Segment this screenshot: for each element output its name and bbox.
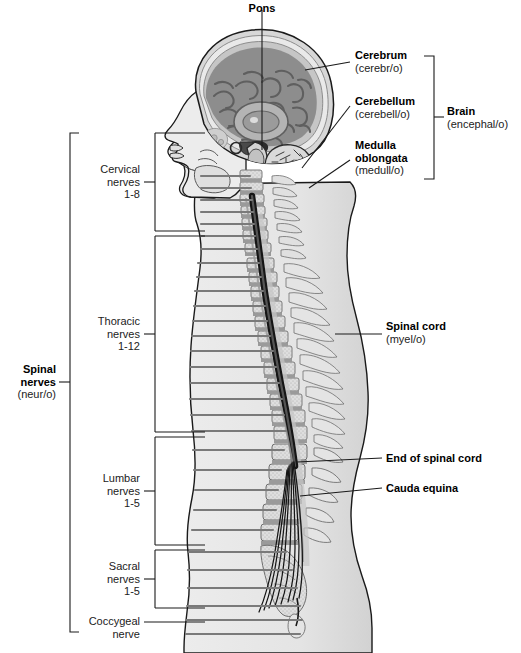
bracket-spinal-nerves — [70, 133, 79, 632]
label-brain-group: Brain (encephal/o) — [447, 105, 508, 130]
label-cervical-nerves: Cervical nerves 1-8 — [46, 163, 140, 201]
label-end-of-spinal-cord: End of spinal cord — [386, 452, 482, 465]
label-thoracic-nerves: Thoracic nerves 1-12 — [46, 315, 140, 353]
label-lumbar-nerves: Lumbar nerves 1-5 — [46, 472, 140, 510]
bracket-brain — [424, 56, 434, 179]
label-cauda-equina: Cauda equina — [386, 482, 458, 495]
label-pons: Pons — [232, 2, 292, 15]
label-coccygeal-nerve: Coccygeal nerve — [40, 615, 140, 640]
label-spinal-cord: Spinal cord (myel/o) — [386, 320, 446, 345]
label-sacral-nerves: Sacral nerves 1-5 — [46, 560, 140, 598]
label-cerebrum: Cerebrum (cerebr/o) — [355, 49, 407, 74]
anatomy-figure: Pons Cerebrum (cerebr/o) Cerebellum (cer… — [0, 0, 521, 653]
label-cerebellum: Cerebellum (cerebell/o) — [355, 95, 415, 120]
label-spinal-nerves-group: Spinal nerves (neur/o) — [0, 363, 56, 401]
left-brackets — [59, 133, 205, 632]
label-medulla-oblongata: Medulla oblongata (medull/o) — [355, 139, 408, 177]
